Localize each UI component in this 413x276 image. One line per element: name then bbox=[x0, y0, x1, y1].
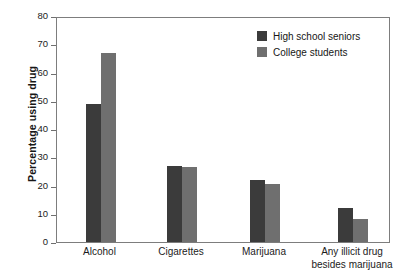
bar-any-illicit-drug-series-1 bbox=[353, 219, 368, 242]
legend-swatch-icon bbox=[257, 31, 267, 41]
y-axis-tick: 70 bbox=[0, 45, 56, 46]
y-axis-tick: 10 bbox=[0, 215, 56, 216]
y-axis-tick-mark bbox=[51, 215, 56, 216]
y-axis-tick-label: 40 bbox=[37, 123, 48, 134]
legend-label: High school seniors bbox=[273, 31, 360, 42]
y-axis-tick: 40 bbox=[0, 130, 56, 131]
y-axis-tick-label: 60 bbox=[37, 67, 48, 78]
bar-chart-figure: Percentage using drug 01020304050607080 … bbox=[0, 0, 413, 276]
y-axis-tick-label: 70 bbox=[37, 38, 48, 49]
legend-item: High school seniors bbox=[257, 29, 360, 43]
y-axis-tick-label: 30 bbox=[37, 151, 48, 162]
y-axis-tick-label: 80 bbox=[37, 10, 48, 21]
y-axis-tick-mark bbox=[51, 74, 56, 75]
bar-cigarettes-series-1 bbox=[182, 167, 197, 242]
chart-legend: High school seniorsCollege students bbox=[257, 29, 360, 61]
legend-label: College students bbox=[273, 47, 348, 58]
y-axis-tick: 30 bbox=[0, 158, 56, 159]
bar-marijuana-series-1 bbox=[265, 184, 280, 242]
y-axis-tick-mark bbox=[51, 158, 56, 159]
y-axis-tick: 60 bbox=[0, 74, 56, 75]
y-axis-tick-label: 10 bbox=[37, 208, 48, 219]
legend-item: College students bbox=[257, 45, 360, 59]
y-axis-tick: 80 bbox=[0, 17, 56, 18]
y-axis-tick-mark bbox=[51, 17, 56, 18]
bar-alcohol-series-1 bbox=[101, 53, 116, 242]
y-axis-tick-mark bbox=[51, 130, 56, 131]
bar-marijuana-series-0 bbox=[250, 180, 265, 242]
y-axis-tick-label: 50 bbox=[37, 95, 48, 106]
y-axis-tick-mark bbox=[51, 187, 56, 188]
y-axis-tick: 0 bbox=[0, 243, 56, 244]
y-axis-tick-mark bbox=[51, 243, 56, 244]
y-axis-tick-label: 20 bbox=[37, 180, 48, 191]
bar-any-illicit-drug-series-0 bbox=[338, 208, 353, 242]
bar-alcohol-series-0 bbox=[86, 104, 101, 242]
bar-cigarettes-series-0 bbox=[167, 166, 182, 242]
y-axis-tick: 20 bbox=[0, 187, 56, 188]
y-axis-tick: 50 bbox=[0, 102, 56, 103]
y-axis-tick-mark bbox=[51, 45, 56, 46]
y-axis-tick-mark bbox=[51, 102, 56, 103]
legend-swatch-icon bbox=[257, 47, 267, 57]
x-axis-label: Any illicit drug besides marijuana bbox=[292, 246, 412, 271]
